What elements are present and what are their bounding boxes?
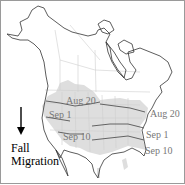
arrow-down-icon <box>17 107 25 135</box>
legend-title: Fall Migration <box>11 142 59 168</box>
isochrone-label-west-sep1: Sep 1 <box>49 110 72 120</box>
legend-line-2: Migration <box>11 155 59 168</box>
isochrone-label-west-sep10: Sep 10 <box>63 132 91 142</box>
isochrone-label-east-sep10: Sep 10 <box>145 146 173 156</box>
isochrone-label-west-aug20: Aug 20 <box>66 96 96 106</box>
isochrone-label-east-sep1: Sep 1 <box>146 130 169 140</box>
isochrone-label-east-aug20: Aug 20 <box>150 109 180 119</box>
